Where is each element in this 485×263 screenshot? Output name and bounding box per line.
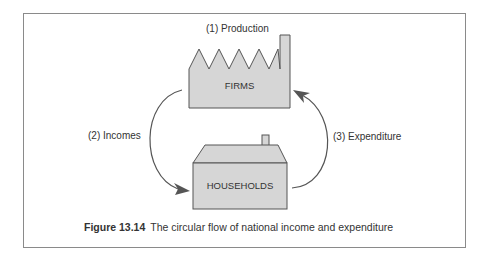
- incomes-label: (2) Incomes: [88, 130, 141, 141]
- incomes-arrow: [150, 90, 190, 195]
- expenditure-label: (3) Expenditure: [333, 131, 401, 142]
- figure-caption-text: The circular flow of national income and…: [150, 221, 393, 233]
- house-icon: [193, 135, 287, 209]
- factory-icon: [189, 35, 290, 108]
- expenditure-arrow: [292, 90, 328, 188]
- firms-label: FIRMS: [189, 80, 290, 91]
- production-label: (1) Production: [206, 23, 269, 34]
- figure-number: Figure 13.14: [84, 221, 145, 233]
- households-label: HOUSEHOLDS: [193, 180, 287, 191]
- figure-caption: Figure 13.14The circular flow of nationa…: [84, 221, 393, 233]
